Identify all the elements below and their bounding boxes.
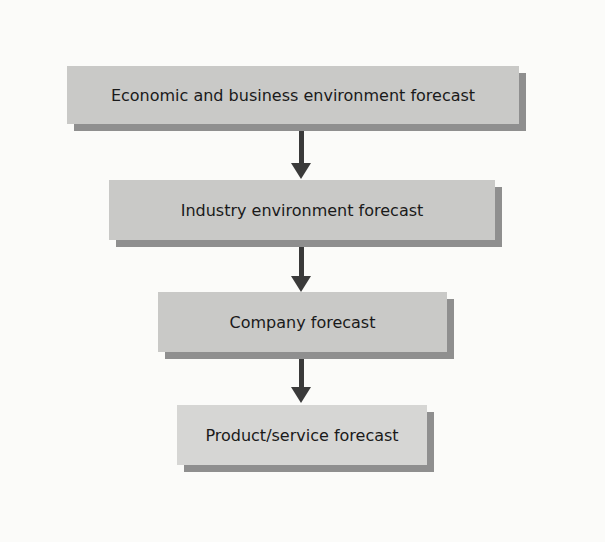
- node-label: Company forecast: [230, 313, 376, 332]
- arrow-down-icon: [291, 359, 311, 403]
- node-label: Product/service forecast: [205, 426, 398, 445]
- node-product-service-forecast: Product/service forecast: [177, 405, 427, 465]
- node-label: Economic and business environment foreca…: [111, 86, 475, 105]
- node-economic-business-environment-forecast: Economic and business environment foreca…: [67, 66, 519, 124]
- arrow-down-icon: [291, 247, 311, 292]
- node-company-forecast: Company forecast: [158, 292, 447, 352]
- arrow-down-icon: [291, 131, 311, 179]
- node-label: Industry environment forecast: [181, 201, 424, 220]
- node-industry-environment-forecast: Industry environment forecast: [109, 180, 495, 240]
